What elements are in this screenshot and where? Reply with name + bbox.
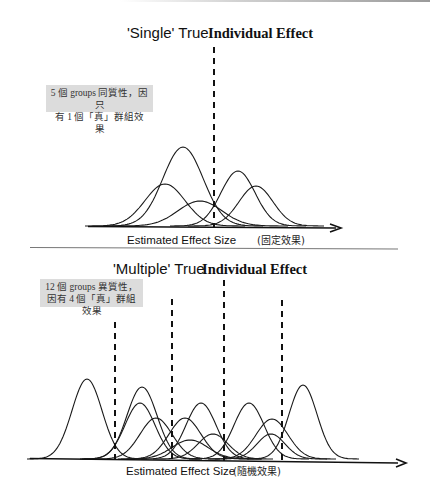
distribution-curve bbox=[85, 184, 245, 226]
diagram-canvas: 'Single' True Individual Effect Estimate… bbox=[0, 0, 430, 500]
bottom-title-bold: Individual Effect bbox=[202, 261, 307, 277]
bottom-title-quote: 'Multiple' True bbox=[113, 260, 205, 277]
bottom-distribution-curves bbox=[27, 379, 359, 459]
top-axis-label: Estimated Effect Size bbox=[127, 234, 236, 246]
diagram-svg: 'Single' True Individual Effect Estimate… bbox=[0, 0, 430, 500]
bottom-note-line2: 因有 4 個「真」群組效果 bbox=[44, 293, 139, 317]
distribution-curve bbox=[215, 434, 327, 459]
top-distribution-curves bbox=[85, 147, 324, 226]
distribution-curve bbox=[121, 418, 249, 459]
bottom-note-line1: 12 個 groups 異質性， bbox=[44, 281, 139, 293]
top-note-line2: 有 1 個「真」群組效果 bbox=[50, 111, 149, 135]
bottom-axis-label: Estimated Effect Size bbox=[126, 465, 235, 477]
bottom-note-box: 12 個 groups 異質性， 因有 4 個「真」群組效果 bbox=[40, 279, 143, 307]
top-x-axis bbox=[88, 227, 336, 229]
top-title-quote: 'Single' True bbox=[127, 24, 209, 41]
top-note-box: 5 個 groups 同質性，因只 有 1 個「真」群組效果 bbox=[46, 85, 153, 112]
distribution-curve bbox=[27, 379, 147, 459]
distribution-curve bbox=[80, 403, 200, 459]
distribution-curve bbox=[247, 385, 359, 459]
panel-divider bbox=[30, 248, 398, 250]
bottom-axis-label-suffix: (隨機效果) bbox=[233, 465, 281, 477]
top-panel: 'Single' True Individual Effect Estimate… bbox=[85, 24, 341, 246]
distribution-curve bbox=[82, 387, 202, 459]
top-note-line1: 5 個 groups 同質性，因只 bbox=[50, 87, 149, 111]
distribution-curve bbox=[103, 147, 263, 226]
top-axis-label-suffix: (固定效果) bbox=[257, 234, 305, 246]
top-title-bold: Individual Effect bbox=[208, 25, 313, 41]
top-border-line bbox=[120, 0, 430, 2]
